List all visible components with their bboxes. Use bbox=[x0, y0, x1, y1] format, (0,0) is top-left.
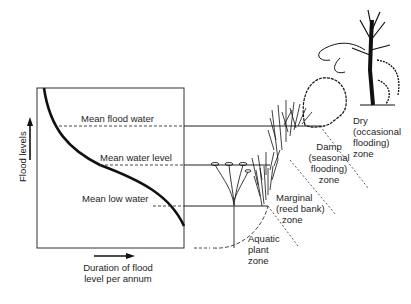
zone-damp-label: Damp (seasonal flooding) zone bbox=[304, 141, 354, 185]
zone-damp-line: Damp bbox=[304, 141, 354, 152]
zone-damp-line: flooding) bbox=[304, 163, 354, 174]
shrub-illustration bbox=[303, 78, 346, 127]
y-axis-label: Flood levels bbox=[17, 131, 28, 182]
zone-dry-line: Dry bbox=[353, 115, 401, 126]
x-axis-arrow-head bbox=[126, 253, 135, 259]
x-axis-label-line2: level per annum bbox=[78, 273, 158, 284]
level-label-low: Mean low water bbox=[82, 193, 149, 204]
zone-aquatic-line: Aquatic bbox=[248, 233, 280, 244]
zone-aquatic-line: plant bbox=[248, 244, 280, 255]
zone-dry-line: flooding) bbox=[353, 137, 401, 148]
zone-aquatic-line: zone bbox=[248, 255, 280, 266]
tree-illustration bbox=[319, 10, 399, 105]
x-axis-label-line1: Duration of flood bbox=[78, 262, 158, 273]
zone-aquatic-label: Aquatic plant zone bbox=[248, 233, 280, 266]
zone-marginal-line: Marginal bbox=[276, 192, 325, 203]
level-label-flood: Mean flood water bbox=[81, 113, 154, 124]
zone-dry-line: (occasional bbox=[353, 126, 401, 137]
zone-marginal-label: Marginal (reed bank) zone bbox=[276, 192, 325, 225]
zone-marginal-line: zone bbox=[276, 214, 325, 225]
zone-dry-label: Dry (occasional flooding) zone bbox=[353, 115, 401, 159]
zone-damp-line: (seasonal bbox=[304, 152, 354, 163]
level-label-mean: Mean water level bbox=[100, 152, 172, 163]
aquatic-plant-illustration bbox=[211, 163, 251, 249]
zone-dry-line: zone bbox=[353, 148, 401, 159]
zone-marginal-line: (reed bank) bbox=[276, 203, 325, 214]
zone-damp-line: zone bbox=[304, 174, 354, 185]
y-axis-arrow-head bbox=[27, 117, 33, 126]
